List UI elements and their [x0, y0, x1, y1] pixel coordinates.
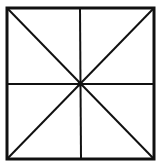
square-diagram: [0, 0, 161, 167]
center-point: [78, 82, 83, 87]
